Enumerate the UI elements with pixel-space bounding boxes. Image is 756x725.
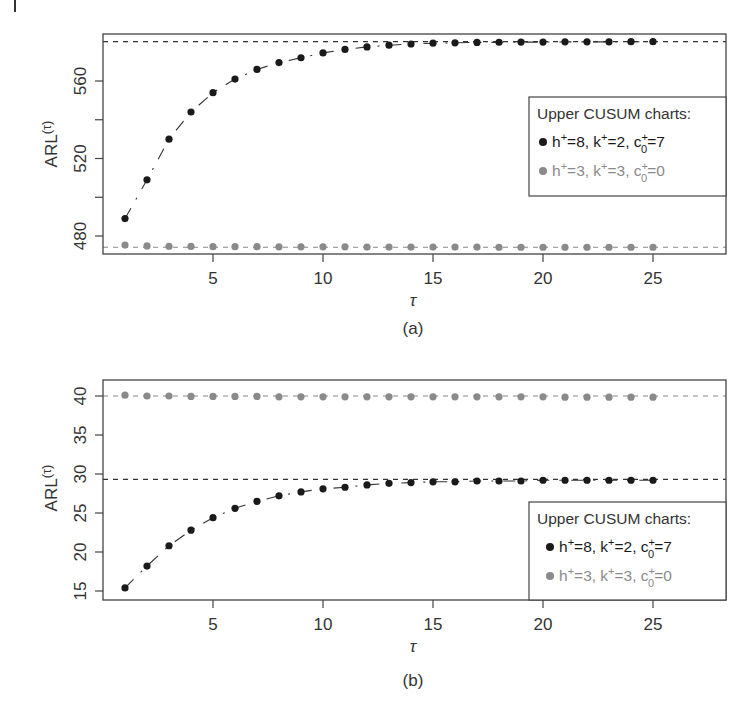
chart-panel-b: 510152025152025303540ARL(τ)τ(b)Upper CUS… (39, 380, 726, 690)
x-tick-label: 25 (644, 269, 663, 288)
x-tick-label: 10 (314, 269, 333, 288)
data-point (495, 477, 502, 484)
x-axis-label: τ (410, 291, 418, 310)
legend-marker-black (546, 543, 554, 551)
data-point (165, 542, 172, 549)
data-point (253, 393, 260, 400)
y-tick-label: 35 (71, 426, 90, 445)
x-tick-label: 20 (534, 615, 553, 634)
x-tick-label: 5 (208, 269, 217, 288)
series-gray (121, 242, 656, 251)
data-point (429, 40, 436, 47)
figure: 510152025480520560ARL(τ)τ(a)Upper CUSUM … (0, 0, 756, 725)
data-point (407, 393, 414, 400)
data-point (605, 394, 612, 401)
data-point (209, 89, 216, 96)
data-point (583, 244, 590, 251)
data-point (473, 39, 480, 46)
data-point (605, 477, 612, 484)
chart-panel-a: 510152025480520560ARL(τ)τ(a)Upper CUSUM … (39, 34, 726, 338)
data-point (341, 46, 348, 53)
x-tick-label: 15 (424, 615, 443, 634)
panel-caption: (a) (403, 319, 424, 338)
data-point (495, 39, 502, 46)
y-axis-label-superscript: (τ) (39, 121, 54, 135)
data-point (627, 244, 634, 251)
data-point (649, 244, 656, 251)
data-point (209, 393, 216, 400)
data-point (143, 562, 150, 569)
y-axis-label-superscript: (τ) (39, 465, 54, 479)
data-point (561, 38, 568, 45)
data-point (231, 393, 238, 400)
data-point (429, 243, 436, 250)
data-point (517, 393, 524, 400)
data-point (429, 478, 436, 485)
data-point (649, 394, 656, 401)
data-point (275, 59, 282, 66)
y-axis-label: ARL(τ) (39, 465, 61, 512)
data-point (649, 38, 656, 45)
data-point (187, 527, 194, 534)
data-point (495, 244, 502, 251)
x-tick-label: 20 (534, 269, 553, 288)
data-point (385, 42, 392, 49)
data-point (209, 514, 216, 521)
data-point (583, 38, 590, 45)
data-point (319, 393, 326, 400)
x-axis-label: τ (410, 637, 418, 656)
data-point (473, 393, 480, 400)
data-point (121, 392, 128, 399)
data-point (385, 393, 392, 400)
data-point (561, 394, 568, 401)
panel-caption: (b) (403, 671, 424, 690)
data-point (165, 392, 172, 399)
data-point (121, 242, 128, 249)
data-point (253, 243, 260, 250)
y-tick-label: 480 (71, 222, 90, 250)
data-point (319, 485, 326, 492)
data-point (297, 54, 304, 61)
legend-title: Upper CUSUM charts: (537, 105, 691, 122)
data-point (297, 488, 304, 495)
data-point (363, 243, 370, 250)
y-axis-label: ARL(τ) (39, 121, 61, 168)
y-tick-label: 40 (71, 387, 90, 406)
data-point (539, 393, 546, 400)
data-point (517, 477, 524, 484)
data-point (495, 393, 502, 400)
data-point (451, 243, 458, 250)
y-axis-label-base: ARL (42, 478, 61, 511)
data-point (275, 243, 282, 250)
data-point (605, 38, 612, 45)
data-point (451, 39, 458, 46)
data-point (429, 393, 436, 400)
legend-title: Upper CUSUM charts: (537, 510, 691, 527)
data-point (539, 244, 546, 251)
y-tick-label: 30 (71, 465, 90, 484)
data-point (121, 584, 128, 591)
data-point (187, 243, 194, 250)
data-point (165, 243, 172, 250)
data-point (517, 244, 524, 251)
data-point (583, 394, 590, 401)
data-point (297, 393, 304, 400)
data-point (627, 38, 634, 45)
data-point (407, 40, 414, 47)
data-point (407, 479, 414, 486)
data-point (187, 393, 194, 400)
y-axis-label-base: ARL (42, 134, 61, 167)
data-point (473, 243, 480, 250)
data-point (143, 392, 150, 399)
data-point (297, 243, 304, 250)
data-point (209, 243, 216, 250)
data-point (583, 477, 590, 484)
data-point (473, 477, 480, 484)
data-point (517, 38, 524, 45)
data-point (649, 477, 656, 484)
data-point (319, 243, 326, 250)
x-tick-label: 10 (314, 615, 333, 634)
data-point (341, 243, 348, 250)
y-tick-label: 20 (71, 543, 90, 562)
data-point (231, 75, 238, 82)
